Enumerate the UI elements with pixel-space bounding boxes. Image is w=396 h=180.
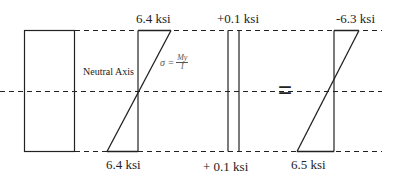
bending-formula: σ = My I (160, 54, 188, 71)
axial-top-stress-label: +0.1 ksi (217, 12, 259, 25)
bending-stress-diagram (107, 31, 171, 152)
neutral-axis-label: Neutral Axis (83, 66, 134, 77)
result-top-stress-label: -6.3 ksi (336, 12, 375, 25)
equals-sign: = (278, 78, 292, 102)
bending-top-stress-label: 6.4 ksi (136, 12, 171, 25)
diagram-lines (0, 0, 396, 180)
bending-bottom-stress-label: 6.4 ksi (106, 158, 141, 171)
formula-denominator: I (181, 63, 184, 71)
stress-diagram: Neutral Axis σ = My I 6.4 ksi 6.4 ksi +0… (0, 0, 396, 180)
formula-lhs: σ = (160, 57, 174, 68)
formula-fraction: My I (176, 54, 188, 71)
axial-bottom-stress-label: + 0.1 ksi (203, 160, 248, 173)
result-bottom-stress-label: 6.5 ksi (291, 158, 326, 171)
